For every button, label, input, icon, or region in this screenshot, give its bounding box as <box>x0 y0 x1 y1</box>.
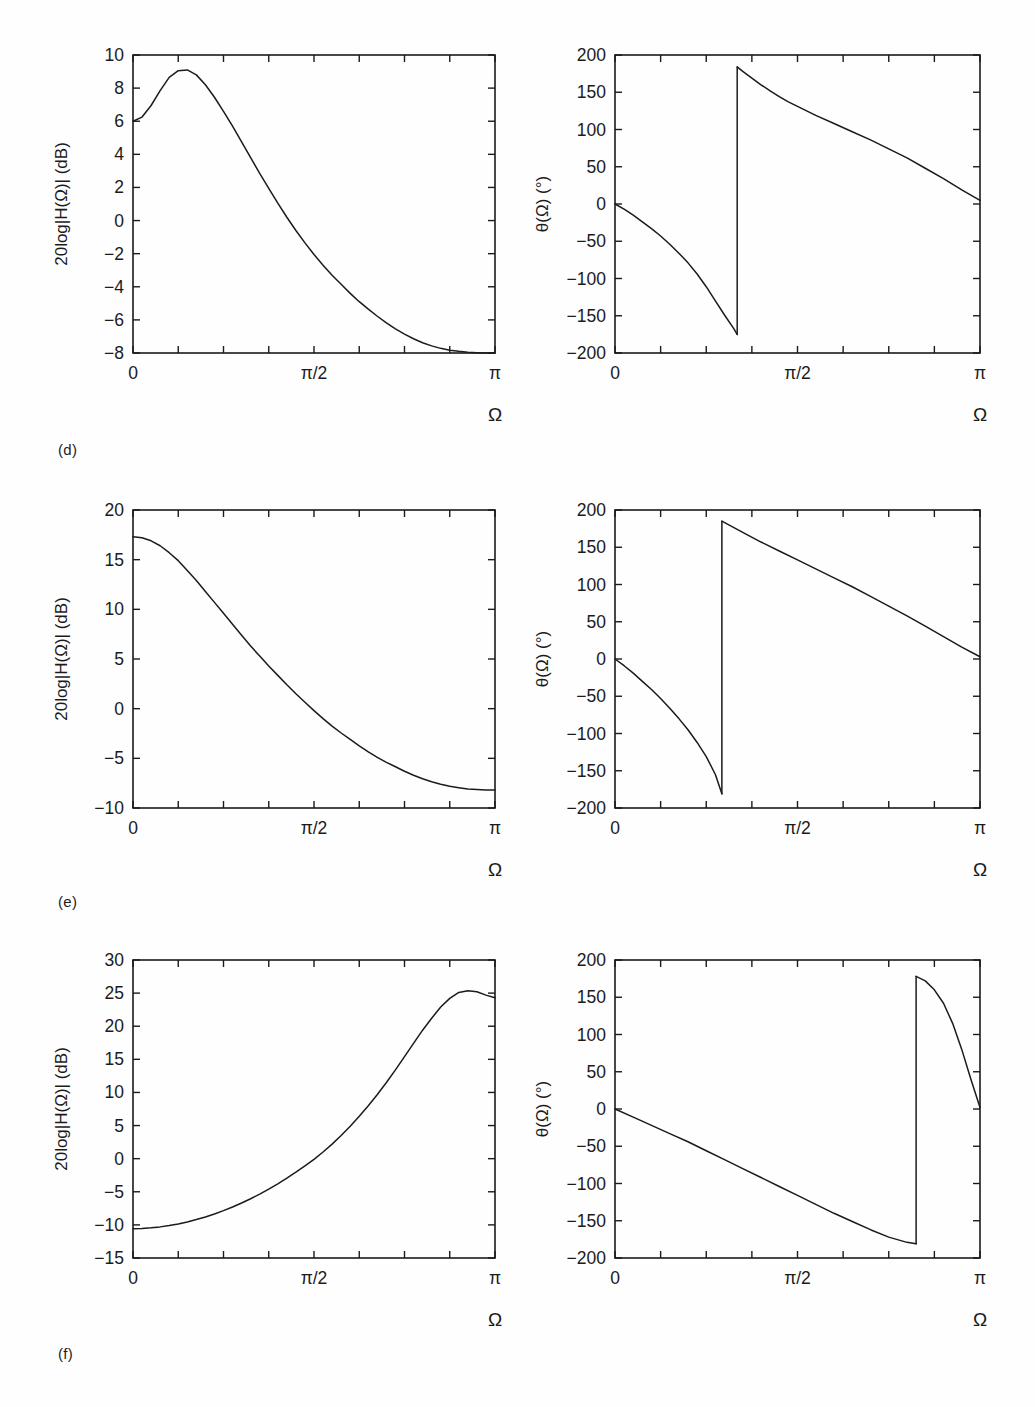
x-tick-label: π/2 <box>301 818 328 838</box>
x-tick-label: π <box>489 363 501 383</box>
plot-d-phase: −200−150−100−500501001502000π/2πθ(Ω) (°)… <box>520 0 1000 455</box>
y-tick-label: 0 <box>596 1099 606 1119</box>
y-tick-label: −10 <box>94 798 124 818</box>
panel-label-f: (f) <box>58 1345 73 1362</box>
y-tick-label: 200 <box>577 45 606 65</box>
x-tick-label: π/2 <box>784 1268 811 1288</box>
data-curve <box>737 67 980 200</box>
y-tick-label: 2 <box>114 177 124 197</box>
plot-f-magnitude-svg: −15−10−50510152025300π/2π20log|H(Ω)| (dB… <box>45 905 515 1360</box>
x-tick-label: π/2 <box>301 363 328 383</box>
x-tick-label: π <box>974 1268 986 1288</box>
y-tick-label: 10 <box>105 1082 125 1102</box>
plot-e-phase-svg: −200−150−100−500501001502000π/2πθ(Ω) (°)… <box>520 455 1000 910</box>
data-curve <box>615 1109 916 1244</box>
y-axis-title: 20log|H(Ω)| (dB) <box>52 1047 71 1171</box>
x-tick-label: 0 <box>610 1268 620 1288</box>
figure-row-d: −8−6−4−202468100π/2π20log|H(Ω)| (dB)Ω −2… <box>0 0 1035 455</box>
data-curve <box>133 537 495 790</box>
y-tick-label: −50 <box>576 231 606 251</box>
y-tick-label: −100 <box>567 1174 607 1194</box>
x-tick-label: 0 <box>128 1268 138 1288</box>
y-tick-label: 6 <box>114 111 124 131</box>
y-tick-label: 100 <box>577 1025 606 1045</box>
x-tick-label: π <box>489 818 501 838</box>
y-tick-label: 50 <box>587 157 607 177</box>
plot-d-magnitude: −8−6−4−202468100π/2π20log|H(Ω)| (dB)Ω <box>45 0 515 455</box>
y-axis-title: θ(Ω) (°) <box>533 1081 552 1137</box>
y-tick-label: 50 <box>587 612 607 632</box>
x-axis-title: Ω <box>488 404 502 425</box>
plot-e-phase: −200−150−100−500501001502000π/2πθ(Ω) (°)… <box>520 455 1000 910</box>
y-tick-label: 15 <box>105 550 124 570</box>
data-curve <box>615 659 722 794</box>
x-tick-label: π <box>974 363 986 383</box>
y-tick-label: 8 <box>114 78 124 98</box>
y-tick-label: 150 <box>577 82 606 102</box>
y-axis-title: 20log|H(Ω)| (dB) <box>52 597 71 721</box>
y-tick-label: 30 <box>105 950 125 970</box>
x-axis-title: Ω <box>973 1309 987 1330</box>
y-tick-label: 100 <box>577 120 606 140</box>
y-tick-label: −8 <box>104 343 124 363</box>
y-axis-title: 20log|H(Ω)| (dB) <box>52 142 71 266</box>
x-tick-label: π/2 <box>301 1268 328 1288</box>
x-tick-label: 0 <box>128 818 138 838</box>
x-tick-label: π <box>489 1268 501 1288</box>
plot-f-phase-svg: −200−150−100−500501001502000π/2πθ(Ω) (°)… <box>520 905 1000 1360</box>
y-tick-label: −100 <box>567 269 607 289</box>
x-tick-label: 0 <box>128 363 138 383</box>
y-tick-label: −150 <box>567 761 607 781</box>
data-curve <box>722 521 980 657</box>
y-tick-label: 0 <box>114 699 124 719</box>
x-axis-title: Ω <box>973 404 987 425</box>
figure-row-f: −15−10−50510152025300π/2π20log|H(Ω)| (dB… <box>0 905 1035 1360</box>
y-tick-label: −10 <box>94 1215 124 1235</box>
y-tick-label: −4 <box>104 277 124 297</box>
y-tick-label: −150 <box>567 306 607 326</box>
y-tick-label: −50 <box>576 686 606 706</box>
x-axis-title: Ω <box>488 859 502 880</box>
y-tick-label: −50 <box>576 1136 606 1156</box>
y-tick-label: 0 <box>596 194 606 214</box>
y-tick-label: −200 <box>567 798 607 818</box>
y-tick-label: 100 <box>577 575 606 595</box>
y-tick-label: 20 <box>105 500 125 520</box>
y-axis-title: θ(Ω) (°) <box>533 631 552 687</box>
y-axis-title: θ(Ω) (°) <box>533 176 552 232</box>
data-curve <box>615 204 737 334</box>
y-tick-label: 10 <box>105 45 125 65</box>
x-tick-label: π/2 <box>784 818 811 838</box>
y-tick-label: 50 <box>587 1062 607 1082</box>
y-tick-label: 20 <box>105 1016 125 1036</box>
plot-d-magnitude-svg: −8−6−4−202468100π/2π20log|H(Ω)| (dB)Ω <box>45 0 515 455</box>
y-tick-label: −150 <box>567 1211 607 1231</box>
y-tick-label: 0 <box>114 211 124 231</box>
data-curve <box>916 976 980 1107</box>
data-curve <box>133 70 495 353</box>
y-tick-label: −2 <box>104 244 124 264</box>
y-tick-label: 0 <box>596 649 606 669</box>
y-tick-label: −15 <box>94 1248 124 1268</box>
y-tick-label: −5 <box>104 748 124 768</box>
x-axis-title: Ω <box>488 1309 502 1330</box>
y-tick-label: 200 <box>577 500 606 520</box>
y-tick-label: 25 <box>105 983 124 1003</box>
figure-row-e: −10−5051015200π/2π20log|H(Ω)| (dB)Ω −200… <box>0 455 1035 910</box>
x-tick-label: π/2 <box>784 363 811 383</box>
y-tick-label: 15 <box>105 1049 124 1069</box>
y-tick-label: −100 <box>567 724 607 744</box>
y-tick-label: 5 <box>114 1116 124 1136</box>
y-tick-label: −5 <box>104 1182 124 1202</box>
y-tick-label: −200 <box>567 343 607 363</box>
plot-e-magnitude-svg: −10−5051015200π/2π20log|H(Ω)| (dB)Ω <box>45 455 515 910</box>
y-tick-label: 150 <box>577 987 606 1007</box>
plot-d-phase-svg: −200−150−100−500501001502000π/2πθ(Ω) (°)… <box>520 0 1000 455</box>
x-tick-label: π <box>974 818 986 838</box>
y-tick-label: 4 <box>114 144 124 164</box>
figure-page: −8−6−4−202468100π/2π20log|H(Ω)| (dB)Ω −2… <box>0 0 1035 1407</box>
plot-f-magnitude: −15−10−50510152025300π/2π20log|H(Ω)| (dB… <box>45 905 515 1360</box>
x-tick-label: 0 <box>610 363 620 383</box>
y-tick-label: −200 <box>567 1248 607 1268</box>
y-tick-label: 10 <box>105 599 125 619</box>
